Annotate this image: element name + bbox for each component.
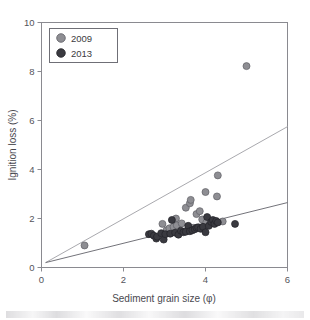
x-axis-ticks: 0246: [39, 268, 290, 285]
data-point-2009: [202, 189, 209, 196]
data-point-2013: [168, 216, 175, 223]
y-tick-label: 4: [29, 164, 34, 175]
data-point-2009: [213, 193, 220, 200]
y-axis-title: Ignition loss (%): [7, 109, 18, 180]
y-tick-label: 0: [29, 262, 34, 273]
data-point-2013: [232, 220, 239, 227]
legend-label-2013: 2013: [71, 48, 92, 59]
legend: 2009 2013: [50, 29, 118, 63]
scatter-plot: 0246810 0246 Ignition loss (%) Sediment …: [0, 0, 310, 320]
x-tick-label: 2: [121, 274, 126, 285]
data-point-2009: [178, 220, 185, 227]
figure-container: 0246810 0246 Ignition loss (%) Sediment …: [0, 0, 310, 320]
legend-marker-2013: [57, 49, 66, 58]
x-tick-label: 6: [285, 274, 290, 285]
y-tick-label: 2: [29, 213, 34, 224]
legend-label-2009: 2009: [71, 33, 92, 44]
data-point-2013: [214, 219, 221, 226]
data-point-2013: [202, 229, 209, 236]
y-axis-ticks: 0246810: [24, 17, 42, 273]
data-point-2009: [159, 220, 166, 227]
y-tick-label: 10: [24, 17, 35, 28]
data-point-2009: [214, 172, 221, 179]
data-point-2009: [243, 63, 250, 70]
y-tick-label: 6: [29, 115, 34, 126]
data-point-2009: [81, 242, 88, 249]
x-tick-label: 0: [39, 274, 44, 285]
x-axis-title: Sediment grain size (φ): [112, 293, 216, 304]
x-tick-label: 4: [203, 274, 208, 285]
figure-caption-blurred: [6, 311, 304, 318]
data-point-2009: [196, 208, 203, 215]
data-point-2009: [187, 196, 194, 203]
legend-marker-2009: [57, 34, 66, 43]
y-tick-label: 8: [29, 66, 34, 77]
